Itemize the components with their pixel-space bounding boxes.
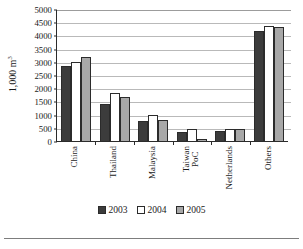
bar <box>177 132 187 141</box>
x-tick-label: Thailand <box>109 146 118 178</box>
bar <box>235 129 245 141</box>
bar-group <box>134 10 173 141</box>
y-tick-mark <box>54 142 58 143</box>
bar <box>100 104 110 141</box>
legend-label: 2005 <box>187 205 206 215</box>
x-tick-label: Others <box>264 146 273 170</box>
x-tick-label-line: China <box>70 146 80 168</box>
bar <box>138 121 148 141</box>
plot-area: 5000450040003500300025002000150010005000 <box>56 10 288 142</box>
bar <box>215 131 225 141</box>
bar <box>81 57 91 141</box>
legend-item[interactable]: 2005 <box>176 205 206 215</box>
bar-groups <box>57 10 288 141</box>
footer-divider <box>4 238 299 239</box>
legend-label: 2003 <box>109 205 128 215</box>
bar <box>274 27 284 141</box>
bar <box>197 139 207 141</box>
bar <box>71 62 81 141</box>
bar-chart-figure: 1,000 m3 5000450040003500300025002000150… <box>0 0 303 249</box>
bar <box>110 93 120 141</box>
bar-group <box>173 10 212 141</box>
legend-item[interactable]: 2004 <box>137 205 167 215</box>
x-tick-label-line: Malaysia <box>147 146 157 179</box>
legend-swatch <box>98 206 106 214</box>
x-tick-label: Malaysia <box>148 146 157 179</box>
x-tick-label: China <box>71 146 80 168</box>
x-tick-label-line: Thailand <box>108 146 118 178</box>
bar <box>148 115 158 141</box>
bar <box>61 66 71 141</box>
x-tick-label: TaiwanPoC <box>182 146 201 172</box>
bar <box>264 26 274 141</box>
x-label-cell: Netherlands <box>211 144 250 200</box>
chart-legend: 200320042005 <box>0 205 303 215</box>
bar-group <box>96 10 135 141</box>
bar <box>120 97 130 141</box>
x-tick-label: Netherlands <box>225 146 234 189</box>
x-label-cell: China <box>56 144 95 200</box>
bar <box>158 120 168 141</box>
legend-label: 2004 <box>148 205 167 215</box>
x-label-cell: TaiwanPoC <box>172 144 211 200</box>
legend-item[interactable]: 2003 <box>98 205 128 215</box>
y-axis-title-superscript: 3 <box>6 56 13 59</box>
bar <box>187 129 197 141</box>
y-axis-title: 1,000 m3 <box>2 0 22 148</box>
x-label-cell: Others <box>249 144 288 200</box>
bar <box>225 129 235 141</box>
footer-caption <box>6 241 296 249</box>
x-label-cell: Malaysia <box>133 144 172 200</box>
x-axis-labels: ChinaThailandMalaysiaTaiwanPoCNetherland… <box>56 144 288 200</box>
x-tick-label-line: Netherlands <box>224 146 234 189</box>
x-tick-label-line: PoC <box>191 146 200 172</box>
bar-group <box>57 10 96 141</box>
bar <box>254 31 264 141</box>
x-label-cell: Thailand <box>95 144 134 200</box>
bar-group <box>211 10 250 141</box>
y-axis-title-text: 1,000 m <box>8 59 18 92</box>
x-tick-label-line: Others <box>263 146 273 170</box>
bar-group <box>250 10 289 141</box>
legend-swatch <box>137 206 145 214</box>
legend-swatch <box>176 206 184 214</box>
plot-inner: 5000450040003500300025002000150010005000 <box>56 10 288 142</box>
